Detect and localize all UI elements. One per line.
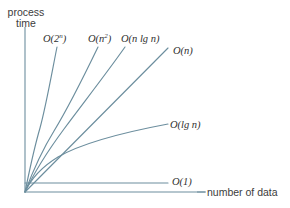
curve-label-o-2-pow-n-base: O(2 bbox=[43, 33, 59, 44]
curve-label-o-2-pow-n: O(2n) bbox=[43, 33, 66, 44]
plot-area bbox=[0, 0, 290, 208]
y-axis-label-line2: time bbox=[3, 18, 49, 29]
y-axis-label: process time bbox=[3, 7, 49, 29]
curve-label-o-n-lg-n: O(n lg n) bbox=[121, 33, 160, 44]
curve-label-o-lg-n: O(lg n) bbox=[170, 119, 201, 130]
curves bbox=[25, 47, 168, 192]
curve-label-o-2-pow-n-tail: ) bbox=[63, 33, 67, 44]
curve-label-o-n-squared: O(n2) bbox=[88, 33, 111, 44]
curve-label-o-n-squared-tail: ) bbox=[108, 33, 112, 44]
curve-label-o-n: O(n) bbox=[173, 45, 193, 56]
complexity-chart: process time number of data O(2n) O(n2) … bbox=[0, 0, 290, 208]
curve-label-o-n-squared-base: O(n bbox=[88, 33, 104, 44]
curve-o-lg-n bbox=[25, 124, 168, 192]
curve-label-o-1: O(1) bbox=[172, 176, 192, 187]
curve-o-n bbox=[25, 48, 168, 192]
x-axis-label: number of data bbox=[207, 187, 278, 198]
